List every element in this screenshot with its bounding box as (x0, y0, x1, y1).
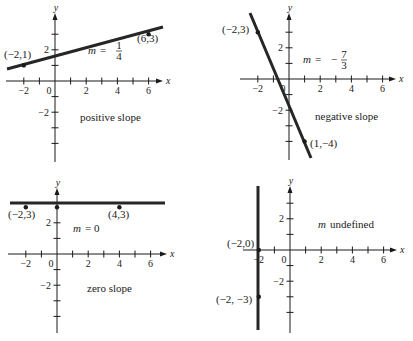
slope-equals: = (100, 44, 106, 56)
y-axis-label: y (288, 175, 294, 186)
y-axis-label: y (287, 2, 293, 13)
x-tick-label: 4 (349, 83, 354, 94)
x-axis-arrow-icon (390, 248, 397, 253)
slope-value: undefined (330, 218, 374, 230)
graph-positive: xy−202462−2(−2,1)(6,3)m=14positive slope (4, 2, 171, 162)
x-axis-label: x (165, 75, 171, 86)
x-tick-label: 4 (115, 85, 120, 96)
slope-denominator: 4 (116, 50, 122, 62)
x-tick-label: 4 (117, 258, 122, 269)
x-tick-label: 6 (381, 254, 386, 265)
data-point (257, 248, 261, 252)
slope-sign: − (331, 53, 337, 65)
slope-symbol: m (88, 44, 96, 56)
x-tick-label: 6 (146, 85, 151, 96)
y-axis-arrow-icon (55, 188, 60, 195)
x-tick-label: 6 (148, 258, 153, 269)
slope-symbol: m (318, 218, 326, 230)
x-axis-arrow-icon (160, 252, 167, 257)
x-tick-label: −2 (20, 258, 31, 269)
graph-undefined: xy−202462−2(−2,0)(−2, −3)m undefined (216, 175, 405, 333)
x-tick-label: 2 (86, 258, 91, 269)
x-tick-label: 6 (380, 83, 385, 94)
x-axis-arrow-icon (389, 77, 396, 82)
slope-symbol: m (303, 53, 311, 65)
y-tick-label: −2 (38, 107, 49, 118)
slope-annotation: m = 0 (73, 222, 100, 234)
y-axis-arrow-icon (287, 13, 292, 20)
point-label: (−2,3) (222, 23, 250, 36)
x-axis-label: x (169, 248, 175, 259)
x-tick-label: −2 (252, 83, 263, 94)
slope-value: = 0 (85, 222, 100, 234)
graph-zero: xy−202462−2(−2,3)(4,3)m = 0zero slope (8, 177, 175, 333)
four-slope-graphs: xy−202462−2(−2,1)(6,3)m=14positive slope… (0, 0, 413, 341)
y-tick-label: 2 (46, 217, 51, 228)
y-axis-arrow-icon (53, 13, 58, 20)
slope-equals: = (315, 53, 321, 65)
data-point (257, 295, 261, 299)
point-label: (1,−4) (310, 137, 338, 150)
y-axis-label: y (53, 2, 59, 13)
point-label: (−2, −3) (216, 293, 253, 306)
graph-caption: positive slope (80, 111, 141, 123)
y-axis-label: y (55, 177, 61, 188)
y-tick-label: −2 (40, 280, 51, 291)
x-axis-label: x (398, 73, 404, 84)
x-tick-label: 2 (319, 254, 324, 265)
x-tick-label: −2 (18, 85, 29, 96)
x-tick-label: 0 (47, 85, 52, 96)
x-tick-label: 0 (282, 254, 287, 265)
y-axis-arrow-icon (288, 186, 293, 193)
point-label: (−2,1) (4, 48, 32, 61)
x-tick-label: 2 (318, 83, 323, 94)
point-label: (6,3) (137, 32, 158, 45)
data-point (22, 63, 26, 67)
y-tick-label: 2 (44, 44, 49, 55)
slope-annotation: m=−73 (303, 48, 347, 71)
x-axis-arrow-icon (156, 79, 163, 84)
point-label: (−2,3) (8, 208, 36, 221)
y-tick-label: −2 (272, 105, 283, 116)
data-point (302, 139, 306, 143)
x-tick-label: 2 (84, 85, 89, 96)
data-point (256, 30, 260, 34)
graph-caption: negative slope (315, 110, 378, 122)
slope-denominator: 3 (341, 59, 347, 71)
graph-negative: xy−202462−2(−2,3)(1,−4)m=−73negative slo… (222, 2, 404, 160)
graph-caption: zero slope (87, 282, 132, 294)
y-tick-label: −2 (273, 276, 284, 287)
x-tick-label: 0 (49, 258, 54, 269)
y-tick-label: 2 (279, 213, 284, 224)
x-axis-label: x (399, 244, 405, 255)
slope-annotation: m undefined (318, 218, 374, 230)
slope-symbol: m (73, 222, 81, 234)
y-tick-label: 2 (278, 42, 283, 53)
data-point (55, 205, 59, 209)
point-label: (4,3) (108, 208, 129, 221)
x-tick-label: 4 (350, 254, 355, 265)
slope-figure: xy−202462−2(−2,1)(6,3)m=14positive slope… (0, 0, 413, 341)
point-label: (−2,0) (227, 237, 255, 250)
